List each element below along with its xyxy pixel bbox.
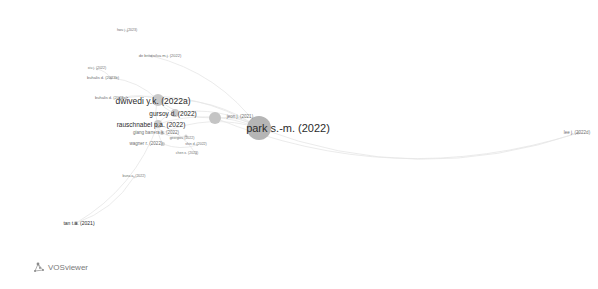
vosviewer-logo: VOSviewer xyxy=(34,262,88,272)
node-label-tan_ta_2021[interactable]: tan t.a. (2021) xyxy=(63,221,94,226)
node-label-rauschnabel_pa_2022[interactable]: rauschnabel p.a. (2022) xyxy=(117,122,186,129)
node-jeon_j_2021[interactable] xyxy=(209,112,221,124)
node-label-buhalis_d_2023a[interactable]: buhalis d. (2023a) xyxy=(95,96,127,100)
node-label-xiu_j_2022[interactable]: xiu j. (2022) xyxy=(88,67,106,71)
node-label-de_brito_silva_mj_2022[interactable]: de brito silva m.j. (2022) xyxy=(139,54,182,58)
node-label-park_sm_2022[interactable]: park s.-m. (2022) xyxy=(246,123,330,134)
edges-layer xyxy=(0,0,598,289)
node-label-buna_a_2022[interactable]: buna a. (2022) xyxy=(123,175,146,179)
edge-tan_ta_2021-buna_a_2022 xyxy=(76,177,134,223)
node-label-buhalis_d_2023b[interactable]: buhalis d. (2023b) xyxy=(87,76,119,80)
vosviewer-logo-text: VOSviewer xyxy=(48,263,88,272)
node-label-chen_x_2023[interactable]: chen x. (2023) xyxy=(176,152,198,156)
node-label-giang_barrera_k_2022[interactable]: giang barrera k. (2022) xyxy=(133,131,179,136)
network-canvas[interactable]: park s.-m. (2022)dwivedi y.k. (2022a)jeo… xyxy=(0,0,598,289)
node-label-shin_d_2022[interactable]: shin d. (2022) xyxy=(185,143,206,147)
edge-tan_ta_2021-rauschnabel_pa_2022 xyxy=(76,124,158,223)
node-label-georgiou_2022[interactable]: georgiou (2022) xyxy=(170,137,195,141)
node-label-jeon_j_2021[interactable]: jeon j. (2021) xyxy=(227,115,253,120)
node-label-wagner_2022[interactable]: wagner r. (2022) xyxy=(130,142,163,147)
node-label-gursoy_d_2022[interactable]: gursoy d. (2022) xyxy=(149,111,196,118)
node-label-hwu_j_2023[interactable]: hwu j. (2023) xyxy=(117,29,137,33)
node-label-lee_j_2022d[interactable]: lee j. (2022d) xyxy=(564,131,590,136)
vosviewer-logo-icon xyxy=(34,262,45,272)
